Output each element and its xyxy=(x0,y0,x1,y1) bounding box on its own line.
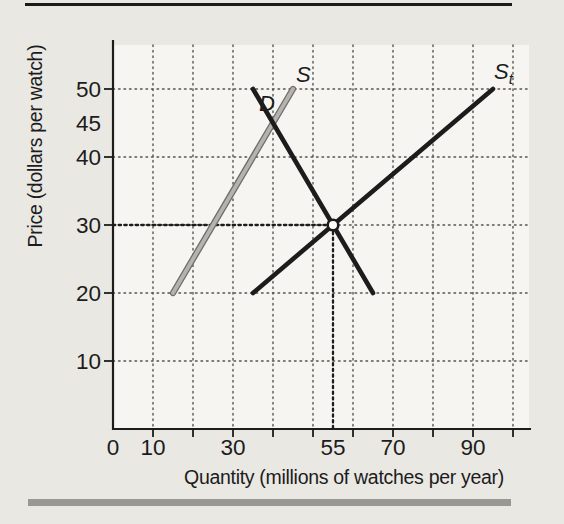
x-axis-title: Quantity (millions of watches per year) xyxy=(184,466,504,488)
x-tick-label: 90 xyxy=(460,435,485,460)
equilibrium-marker xyxy=(328,220,339,231)
y-tick-label: 20 xyxy=(76,281,101,306)
y-tick-label: 40 xyxy=(76,145,101,170)
y-tick-label: 10 xyxy=(76,349,101,374)
x-tick-label: 30 xyxy=(220,435,245,460)
series-label-s: S xyxy=(296,62,311,87)
x-tick-label: 0 xyxy=(107,435,120,460)
y-tick-label: 45 xyxy=(76,111,101,136)
x-tick-label: 70 xyxy=(380,435,405,460)
series-label-d: D xyxy=(259,91,275,116)
x-tick-label: 55 xyxy=(320,435,345,460)
y-tick-label: 50 xyxy=(76,77,101,102)
x-tick-label: 10 xyxy=(140,435,165,460)
supply-demand-chart: 01030557090102030404550SStD Price (dolla… xyxy=(0,0,564,524)
y-axis-title: Price (dollars per watch) xyxy=(24,45,46,248)
figure-bottom-bar xyxy=(28,499,511,506)
y-tick-label: 30 xyxy=(76,213,101,238)
